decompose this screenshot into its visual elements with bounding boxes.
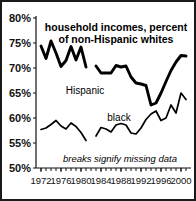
y-tick-label: 70%	[9, 62, 31, 74]
series-line-hispanic	[96, 56, 186, 106]
series-line-black	[41, 121, 86, 141]
chart-figure: 80%75%70%65%60%55%50%1972197619801984198…	[0, 0, 196, 201]
y-tick-label: 55%	[9, 137, 31, 149]
series-label-hispanic: Hispanic	[66, 85, 104, 96]
missing-data-note: breaks signify missing data	[63, 153, 177, 164]
x-tick-label: 1976	[50, 175, 71, 186]
x-tick-label: 2000	[170, 175, 191, 186]
x-tick-label: 1988	[110, 175, 131, 186]
y-tick-label: 60%	[9, 112, 31, 124]
x-tick-label: 1980	[70, 175, 91, 186]
x-tick-label: 1972	[30, 175, 51, 186]
x-tick-label: 1984	[90, 175, 111, 186]
x-tick-label: 1992	[130, 175, 151, 186]
y-tick-label: 65%	[9, 87, 31, 99]
y-tick-label: 75%	[9, 37, 31, 49]
x-tick-label: 1996	[150, 175, 171, 186]
series-label-black: black	[107, 112, 131, 123]
chart-title-line-1: household incomes, percent	[45, 21, 188, 33]
y-tick-label: 80%	[9, 12, 31, 24]
chart-title-line-2: of non-Hispanic whites	[59, 33, 174, 45]
y-tick-label: 50%	[9, 162, 31, 174]
income-ratio-line-chart: 80%75%70%65%60%55%50%1972197619801984198…	[2, 2, 194, 199]
